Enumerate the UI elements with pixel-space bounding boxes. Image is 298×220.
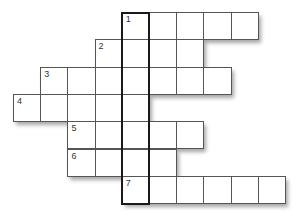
crossword-cell[interactable]: 5 (67, 121, 95, 149)
crossword-cell[interactable] (67, 94, 95, 122)
crossword-cell[interactable] (176, 121, 204, 149)
crossword-cell[interactable] (203, 67, 231, 95)
crossword-cell[interactable] (231, 12, 259, 40)
clue-number: 4 (17, 97, 22, 106)
crossword-cell[interactable] (149, 149, 177, 177)
crossword-cell[interactable]: 3 (40, 67, 68, 95)
crossword-cell[interactable] (176, 67, 204, 95)
crossword-cell[interactable]: 6 (67, 149, 95, 177)
clue-number: 3 (44, 70, 49, 79)
crossword-cell[interactable] (122, 39, 150, 67)
crossword-cell[interactable] (203, 176, 231, 204)
crossword-cell[interactable] (258, 176, 286, 204)
crossword-cell[interactable] (95, 149, 123, 177)
clue-number: 2 (99, 42, 104, 51)
crossword-cell[interactable] (122, 94, 150, 122)
crossword-cell[interactable] (95, 121, 123, 149)
crossword-cell[interactable] (149, 176, 177, 204)
crossword-cell[interactable] (122, 149, 150, 177)
clue-number: 6 (71, 152, 76, 161)
clue-number: 1 (126, 15, 131, 24)
crossword-cell[interactable] (122, 67, 150, 95)
crossword-cell[interactable] (40, 94, 68, 122)
crossword-cell[interactable] (176, 176, 204, 204)
crossword-cell[interactable] (176, 39, 204, 67)
crossword-cell[interactable]: 2 (95, 39, 123, 67)
crossword-cell[interactable] (95, 94, 123, 122)
crossword-cell[interactable] (149, 121, 177, 149)
clue-number: 5 (71, 124, 76, 133)
crossword-cell[interactable] (122, 121, 150, 149)
crossword-cell[interactable] (149, 67, 177, 95)
crossword-cell[interactable] (149, 39, 177, 67)
crossword-cell[interactable] (203, 12, 231, 40)
crossword-cell[interactable]: 7 (122, 176, 150, 204)
crossword-cell[interactable] (231, 176, 259, 204)
crossword-cell[interactable]: 4 (13, 94, 41, 122)
crossword-cell[interactable]: 1 (122, 12, 150, 40)
crossword-grid: 1234567 (0, 0, 298, 220)
crossword-cell[interactable] (176, 12, 204, 40)
clue-number: 7 (126, 179, 131, 188)
crossword-cell[interactable] (67, 67, 95, 95)
crossword-cell[interactable] (149, 12, 177, 40)
crossword-cell[interactable] (95, 67, 123, 95)
